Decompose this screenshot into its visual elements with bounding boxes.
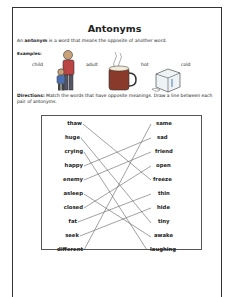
left-word-happy: happy	[65, 162, 83, 168]
right-word-awake: awake	[154, 232, 173, 238]
left-word-fat: fat	[69, 218, 77, 224]
left-word-asleep: asleep	[63, 190, 83, 196]
right-word-laughing: laughing	[150, 246, 176, 252]
right-word-sad: sad	[157, 134, 168, 140]
left-word-seek: seek	[65, 232, 79, 238]
left-word-different: different	[57, 246, 83, 252]
left-word-thaw: thaw	[67, 120, 82, 126]
right-word-hide: hide	[157, 204, 170, 210]
right-word-friend: friend	[155, 148, 173, 154]
left-word-huge: huge	[65, 134, 80, 140]
right-word-same: same	[156, 120, 172, 126]
right-word-freeze: freeze	[153, 176, 172, 182]
left-word-enemy: enemy	[63, 176, 83, 182]
left-word-closed: closed	[64, 204, 83, 210]
left-word-crying: crying	[64, 148, 83, 154]
right-word-open: open	[156, 162, 171, 168]
right-word-thin: thin	[158, 190, 170, 196]
right-word-tiny: tiny	[158, 218, 170, 224]
